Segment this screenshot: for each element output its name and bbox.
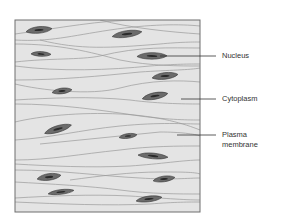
label-plasma-membrane-line1: Plasma [222,130,247,139]
tissue-background [15,20,200,212]
label-nucleus: Nucleus [222,51,249,60]
label-cytoplasm: Cytoplasm [222,94,257,103]
smooth-muscle-diagram [0,0,283,219]
label-plasma-membrane-line2: membrane [222,140,258,149]
